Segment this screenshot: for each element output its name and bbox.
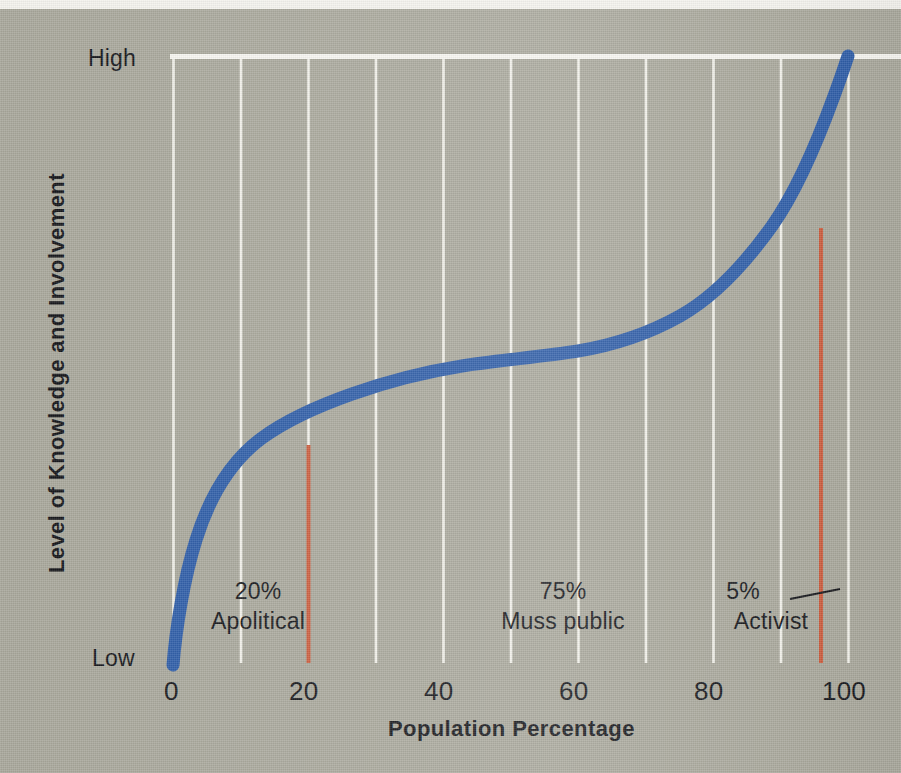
annotation-mass-public: 75% Muss public (493, 576, 633, 637)
annotation-activist-label: Activist (716, 606, 826, 636)
x-axis-title: Population Percentage (388, 716, 635, 742)
x-tick-label-20: 20 (289, 676, 318, 707)
annotation-apolitical: 20% Apolitical (193, 576, 323, 637)
annotation-activist: 5% Activist (716, 576, 826, 637)
annotation-apolitical-percent: 20% (193, 576, 323, 606)
x-tick-label-100: 100 (822, 676, 866, 707)
annotation-mass-public-label: Muss public (493, 606, 633, 636)
chart-plot-area (0, 0, 901, 773)
x-tick-label-0: 0 (164, 676, 179, 707)
annotation-apolitical-label: Apolitical (193, 606, 323, 636)
chart-figure: High Low Level of Knowledge and Involvem… (0, 0, 901, 773)
annotation-activist-percent: 5% (688, 576, 798, 606)
y-axis-high-label: High (88, 45, 136, 72)
x-tick-label-40: 40 (424, 676, 453, 707)
y-axis-title: Level of Knowledge and Involvement (44, 173, 70, 573)
y-axis-low-label: Low (92, 645, 135, 672)
annotation-mass-public-percent: 75% (493, 576, 633, 606)
x-tick-label-80: 80 (694, 676, 723, 707)
x-tick-label-60: 60 (559, 676, 588, 707)
